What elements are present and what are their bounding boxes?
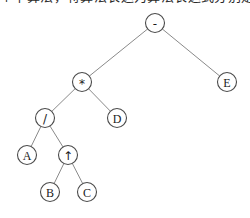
tree-node-n5[interactable]: A	[18, 146, 37, 165]
tree-edge-n3-n6	[50, 126, 63, 147]
tree-node-n7[interactable]: B	[41, 183, 60, 202]
node-label-n6: ↑	[63, 149, 73, 163]
tree-node-n6[interactable]: ↑	[59, 146, 78, 165]
tree-node-n1[interactable]: *	[73, 73, 92, 92]
node-label-n8: C	[83, 186, 91, 200]
node-label-n2: E	[223, 76, 230, 90]
node-label-n1: *	[79, 77, 85, 91]
tree-node-n2[interactable]: E	[218, 73, 237, 92]
tree-svg-canvas: -*E/DA↑BC	[0, 0, 250, 218]
tree-node-n3[interactable]: /	[36, 109, 55, 128]
node-label-n7: B	[46, 186, 54, 200]
tree-edge-n3-n5	[31, 127, 41, 147]
tree-nodes-group: -*E/DA↑BC	[18, 14, 237, 202]
tree-edge-n0-n2	[162, 29, 219, 76]
node-label-n0: -	[153, 17, 157, 31]
tree-edge-n0-n1	[89, 29, 147, 76]
expression-tree-diagram: 个中算法，将算法表达为算法表达式分别定 -*E/DA↑BC	[0, 0, 250, 218]
tree-edges-group	[31, 29, 219, 184]
tree-node-n0[interactable]: -	[146, 14, 165, 33]
tree-node-n8[interactable]: C	[78, 183, 97, 202]
node-label-n4: D	[113, 112, 122, 126]
tree-edge-n1-n4	[89, 89, 111, 111]
tree-node-n4[interactable]: D	[108, 109, 127, 128]
tree-edge-n1-n3	[52, 89, 75, 112]
node-label-n5: A	[23, 149, 32, 163]
tree-edge-n6-n8	[72, 163, 82, 183]
tree-edge-n6-n7	[54, 164, 64, 184]
